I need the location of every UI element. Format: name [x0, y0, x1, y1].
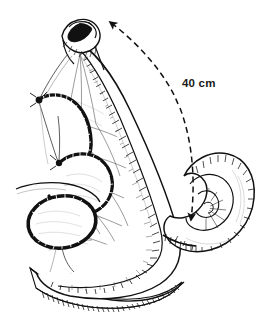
- surgical-illustration-figure: 40 cm: [0, 0, 275, 322]
- measurement-label: 40 cm: [182, 78, 216, 90]
- illustration-canvas: [0, 0, 275, 322]
